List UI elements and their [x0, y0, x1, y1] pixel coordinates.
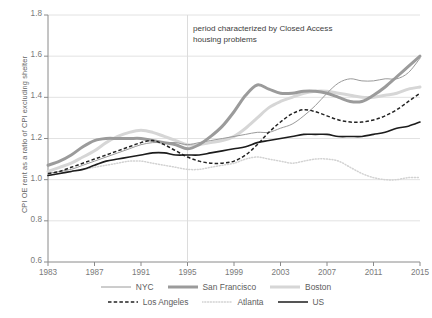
legend-label-atlanta: Atlanta: [237, 297, 263, 307]
legend-item-atlanta[interactable]: Atlanta: [202, 297, 263, 307]
y-tick-label: 1.4: [2, 91, 42, 100]
y-tick-label: 0.6: [2, 256, 42, 265]
legend-label-us: US: [313, 297, 325, 307]
legend-row: Los AngelesAtlantaUS: [0, 294, 432, 309]
legend-swatch-los-angeles: [108, 298, 138, 306]
legend-item-nyc[interactable]: NYC: [101, 282, 154, 292]
legend-label-san-francisco: San Francisco: [203, 282, 257, 292]
chart-annotation: period characterized by Closed Access ho…: [193, 24, 332, 45]
y-tick-label: 1.8: [2, 9, 42, 18]
legend-swatch-nyc: [101, 283, 131, 291]
legend-label-boston: Boston: [305, 282, 331, 292]
legend-item-san-francisco[interactable]: San Francisco: [168, 282, 257, 292]
x-tick-label: 2003: [261, 268, 301, 277]
y-tick-label: 1.2: [2, 133, 42, 142]
x-tick-label: 1983: [28, 268, 68, 277]
x-tick-label: 2011: [354, 268, 394, 277]
chart-legend: NYCSan FranciscoBostonLos AngelesAtlanta…: [0, 279, 432, 309]
x-tick-label: 2007: [307, 268, 347, 277]
legend-swatch-san-francisco: [168, 283, 198, 291]
x-tick-label: 1987: [75, 268, 115, 277]
legend-swatch-boston: [270, 283, 300, 291]
x-tick-label: 2015: [400, 268, 432, 277]
legend-item-los-angeles[interactable]: Los Angeles: [108, 297, 189, 307]
legend-item-boston[interactable]: Boston: [270, 282, 331, 292]
x-tick-label: 1999: [214, 268, 254, 277]
y-tick-label: 1.0: [2, 174, 42, 183]
chart-container: CPI OE rent as a ratio of CPI excluding …: [0, 0, 432, 318]
legend-swatch-atlanta: [202, 298, 232, 306]
legend-label-nyc: NYC: [136, 282, 154, 292]
series-line-us: [48, 122, 420, 176]
y-tick-label: 1.6: [2, 50, 42, 59]
legend-item-us[interactable]: US: [278, 297, 325, 307]
legend-swatch-us: [278, 298, 308, 306]
x-tick-label: 1991: [121, 268, 161, 277]
legend-label-los-angeles: Los Angeles: [143, 297, 189, 307]
y-tick-label: 0.8: [2, 215, 42, 224]
legend-row: NYCSan FranciscoBoston: [0, 279, 432, 294]
x-tick-label: 1995: [168, 268, 208, 277]
